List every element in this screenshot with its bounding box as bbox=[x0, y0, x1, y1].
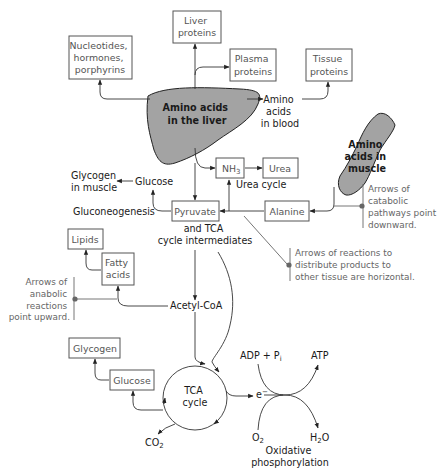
glucose-top-label: Glucose bbox=[135, 176, 173, 187]
amino-acids-blood-label: Amino acids in blood bbox=[261, 94, 299, 129]
electron-label: e− bbox=[256, 388, 268, 400]
svg-text:Lipids: Lipids bbox=[71, 234, 98, 245]
svg-text:Glucose: Glucose bbox=[113, 375, 151, 386]
glycogen-box: Glycogen bbox=[69, 338, 120, 358]
svg-text:Urea: Urea bbox=[269, 163, 291, 174]
atp-label: ATP bbox=[311, 350, 329, 361]
svg-text:Nucleotides, hormones,: Nucleotides, hormones, porphyrins bbox=[69, 40, 130, 75]
tca-intermediates-label: and TCA cycle intermediates bbox=[158, 223, 253, 246]
gluconeogenesis-label: Gluconeogenesis bbox=[73, 206, 155, 217]
liver-proteins-box: Liver proteins bbox=[173, 11, 221, 43]
svg-text:Arrows of anabolic: Arrows of anabolic reactions point upwar… bbox=[9, 277, 70, 322]
svg-text:Pyruvate: Pyruvate bbox=[174, 206, 216, 217]
urea-box: Urea bbox=[263, 158, 298, 178]
pyruvate-box: Pyruvate bbox=[172, 201, 219, 221]
diagram-canvas: Amino acids in the liver Amino acids in … bbox=[0, 0, 440, 472]
svg-text:Alanine: Alanine bbox=[269, 206, 304, 217]
catabolic-note: Arrows of catabolic pathways point downw… bbox=[359, 184, 439, 230]
glucose-bottom-box: Glucose bbox=[110, 370, 154, 390]
acetyl-coa-label: Acetyl-CoA bbox=[170, 300, 223, 311]
plasma-proteins-box: Plasma proteins bbox=[230, 49, 276, 81]
lipids-box: Lipids bbox=[68, 229, 103, 249]
anabolic-note: Arrows of anabolic reactions point upwar… bbox=[9, 277, 78, 322]
oxidative-phosphorylation-label: Oxidative phosphorylation bbox=[251, 445, 329, 468]
o2-label: O2 bbox=[252, 432, 264, 445]
glycogen-muscle-label: Glycogen in muscle bbox=[71, 170, 119, 193]
fatty-acids-box: Fatty acids bbox=[102, 253, 134, 285]
muscle-label: Amino acids in muscle bbox=[345, 139, 390, 174]
alanine-box: Alanine bbox=[265, 201, 309, 221]
svg-text:Glycogen: Glycogen bbox=[73, 343, 117, 354]
svg-text:Fatty acids: Fatty acids bbox=[105, 257, 131, 280]
h2o-label: H2O bbox=[310, 432, 330, 445]
co2-label: CO2 bbox=[145, 437, 164, 450]
tissue-proteins-box: Tissue proteins bbox=[306, 49, 352, 81]
svg-text:Arrows of reactions to d: Arrows of reactions to distribute produc… bbox=[295, 248, 415, 282]
nucleotides-box: Nucleotides, hormones, porphyrins bbox=[69, 36, 132, 79]
urea-cycle-label: Urea cycle bbox=[236, 179, 286, 190]
amino-acid-metabolism-diagram: Amino acids in the liver Amino acids in … bbox=[0, 0, 440, 472]
adp-label: ADP + Pi bbox=[240, 350, 282, 363]
tca-cycle-label: TCA cycle bbox=[183, 385, 208, 408]
svg-text:Arrows of catabolic: Arrows of catabolic pathways point downw… bbox=[368, 184, 439, 230]
nh3-box: NH3 bbox=[216, 158, 244, 178]
distribute-note: Arrows of reactions to distribute produc… bbox=[286, 248, 414, 282]
